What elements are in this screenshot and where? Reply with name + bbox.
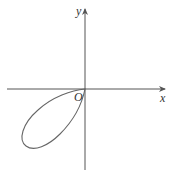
coordinate-diagram: y x O [0, 0, 170, 173]
y-axis-label: y [75, 4, 82, 18]
origin-label: O [74, 90, 83, 104]
x-axis-label: x [159, 91, 166, 105]
